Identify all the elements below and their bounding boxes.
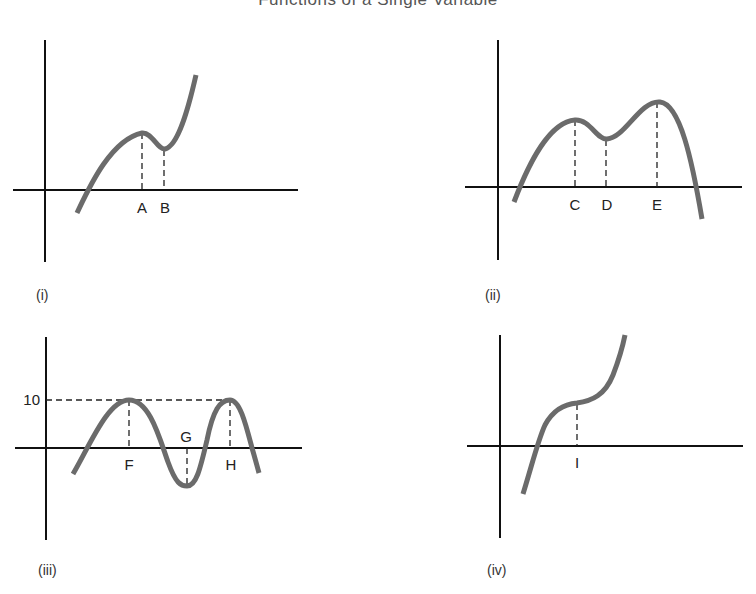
graph-iv: I (iv) [467, 335, 743, 578]
figure-canvas: A B (i) C D E (ii) 10 F G H (iii) I [0, 0, 756, 594]
point-label-a: A [137, 199, 147, 216]
graph-caption: (iv) [487, 562, 506, 578]
graph-caption: (i) [36, 287, 48, 303]
function-curve [73, 400, 259, 486]
point-label-g: G [180, 428, 192, 445]
point-label-e: E [652, 196, 662, 213]
point-label-d: D [602, 196, 613, 213]
point-label-b: B [160, 199, 170, 216]
graph-iii: 10 F G H (iii) [15, 337, 302, 578]
graph-ii: C D E (ii) [465, 40, 742, 303]
point-label-c: C [570, 196, 581, 213]
graph-caption: (ii) [485, 287, 501, 303]
point-label-h: H [226, 456, 237, 473]
graph-i: A B (i) [13, 40, 298, 303]
function-curve [77, 75, 196, 213]
y-tick-label: 10 [23, 391, 40, 408]
point-label-f: F [124, 456, 133, 473]
graph-caption: (iii) [38, 562, 57, 578]
point-label-i: I [575, 454, 579, 471]
